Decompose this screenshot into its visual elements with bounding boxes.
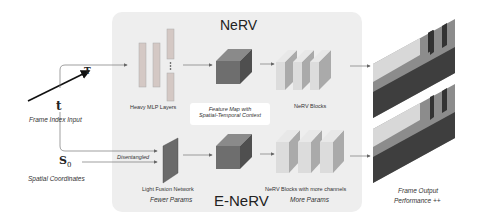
spatial-coordinates-label: Spatial Coordinates (28, 175, 85, 182)
time-axis-arrow (28, 71, 89, 101)
time-symbol-T: T (84, 66, 91, 76)
time-symbol-t: t (56, 99, 62, 113)
nerv-title: NeRV (220, 17, 257, 33)
nerv-blocks-label: NeRV Blocks (294, 103, 326, 109)
enerv-title: E-NeRV (214, 192, 269, 209)
mlp-layers-icon (139, 29, 174, 101)
nerv-blocks-icon (276, 50, 331, 90)
feature-map-cube-top (216, 49, 252, 84)
disentangled-label: Disentangled (117, 154, 149, 160)
fusion-params-label: Fewer Params (150, 196, 192, 203)
mlp-label: Heavy MLP Layers (130, 104, 176, 110)
frame-index-label: Frame Index Input (29, 116, 82, 123)
spatial-symbol: S0 (59, 154, 71, 169)
fusion-network-label: Light Fusion Network (142, 186, 194, 192)
feature-map-label-box: Feature Map with Spatial-Temporal Contex… (190, 103, 270, 125)
feature-map-cube-bottom (216, 134, 252, 169)
fusion-network-icon (163, 138, 178, 183)
enerv-blocks-label: NeRV Blocks with more channels (265, 186, 346, 192)
frame-output-label: Frame Output (398, 187, 438, 194)
time-to-mlp-connector (60, 65, 127, 88)
enerv-params-label: More Params (290, 196, 329, 203)
feature-map-label-line2: Spatial-Temporal Context (190, 112, 270, 118)
performance-label: Performance ++ (394, 197, 441, 204)
enerv-blocks-icon (276, 130, 344, 173)
